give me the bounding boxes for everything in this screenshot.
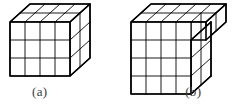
caption-row: (a) (b) [0,82,233,111]
solid-a [10,4,90,76]
caption-b: (b) [136,82,234,111]
solid-b [131,4,226,94]
figure-panel: (a) (b) [0,0,233,111]
caption-a: (a) [0,82,136,111]
